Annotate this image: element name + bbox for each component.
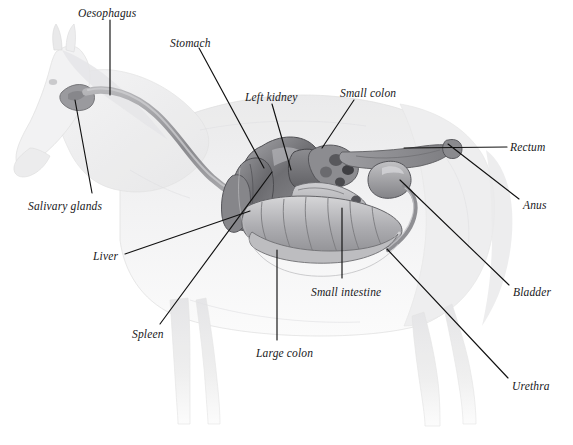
label-liver: Liver — [93, 251, 118, 263]
label-oesophagus: Oesophagus — [78, 8, 136, 20]
horse-ear-far — [66, 24, 76, 52]
horse-ear-near — [53, 24, 62, 50]
label-left-kidney: Left kidney — [245, 92, 297, 104]
horse-foreleg-near — [170, 298, 190, 424]
label-salivary-glands: Salivary glands — [28, 201, 102, 213]
label-urethra: Urethra — [512, 381, 550, 393]
horse-hindleg-near — [412, 312, 440, 426]
label-small-colon: Small colon — [340, 88, 396, 100]
horse-anatomy-illustration — [0, 0, 573, 445]
label-small-intestine: Small intestine — [311, 287, 381, 299]
label-spleen: Spleen — [132, 329, 164, 341]
label-stomach: Stomach — [170, 38, 211, 50]
organ-anus — [443, 139, 462, 158]
label-rectum: Rectum — [510, 142, 545, 154]
horse-hindleg-far — [444, 304, 476, 424]
label-anus: Anus — [523, 200, 547, 212]
horse-eye — [49, 79, 57, 85]
label-large-colon: Large colon — [256, 348, 313, 360]
label-bladder: Bladder — [513, 287, 551, 299]
anatomical-figure: OesophagusStomachLeft kidneySmall colonR… — [0, 0, 573, 445]
